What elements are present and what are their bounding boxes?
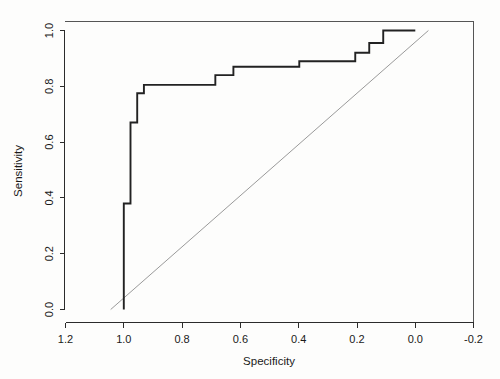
- y-axis-ticks: [60, 31, 65, 310]
- x-tick-label-6: 0.0: [408, 333, 423, 345]
- chance-diagonal-line: [111, 31, 429, 310]
- y-tick-label-0: 0.0: [43, 302, 55, 317]
- x-tick-label-3: 0.6: [233, 333, 248, 345]
- x-axis-title: Specificity: [243, 355, 295, 367]
- y-tick-label-4: 0.8: [43, 79, 55, 94]
- y-tick-label-5: 1.0: [43, 23, 55, 38]
- x-axis-ticks: [66, 323, 474, 328]
- x-tick-label-7: -0.2: [464, 333, 483, 345]
- y-tick-label-1: 0.2: [43, 246, 55, 261]
- x-axis-tick-labels: 1.2 1.0 0.8 0.6 0.4 0.2 0.0 -0.2: [58, 333, 483, 345]
- roc-plot-figure: 0.0 0.2 0.4 0.6 0.8 1.0 1.2 1.0 0.8 0.6 …: [0, 0, 500, 379]
- x-tick-label-2: 0.8: [174, 333, 189, 345]
- y-tick-label-2: 0.4: [43, 190, 55, 205]
- y-tick-label-3: 0.6: [43, 134, 55, 149]
- roc-chart-canvas: 0.0 0.2 0.4 0.6 0.8 1.0 1.2 1.0 0.8 0.6 …: [0, 0, 500, 379]
- x-tick-label-0: 1.2: [58, 333, 73, 345]
- x-tick-label-1: 1.0: [116, 333, 131, 345]
- x-tick-label-5: 0.2: [349, 333, 364, 345]
- y-axis-tick-labels: 0.0 0.2 0.4 0.6 0.8 1.0: [43, 23, 55, 317]
- x-tick-label-4: 0.4: [291, 333, 306, 345]
- y-axis-title: Sensitivity: [12, 145, 24, 197]
